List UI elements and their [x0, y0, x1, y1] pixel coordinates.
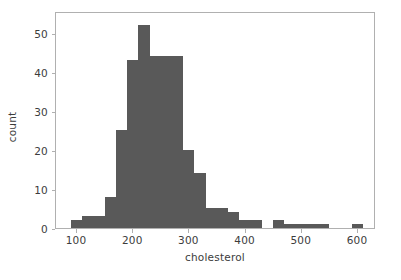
- histogram-bar: [352, 224, 363, 228]
- x-tick-label: 600: [347, 234, 368, 246]
- histogram-bar: [296, 224, 307, 228]
- histogram-bar: [183, 150, 194, 228]
- y-tick-label: 30: [34, 106, 48, 118]
- histogram-bar: [82, 216, 93, 228]
- histogram-bar: [71, 220, 82, 228]
- histogram-bar: [93, 216, 104, 228]
- y-tick-mark: [52, 190, 56, 191]
- x-tick-mark: [301, 229, 302, 233]
- histogram-bar: [228, 212, 239, 228]
- histogram-bar: [127, 60, 138, 228]
- histogram-bars: [56, 13, 374, 228]
- histogram-bar: [172, 56, 183, 228]
- histogram-bar: [206, 208, 217, 228]
- x-tick-label: 200: [122, 234, 143, 246]
- histogram-bar: [105, 197, 116, 228]
- histogram-bar: [138, 25, 149, 228]
- histogram-figure: 100200300400500600 01020304050 cholester…: [0, 0, 401, 280]
- y-tick-label: 40: [34, 67, 48, 79]
- histogram-bar: [194, 173, 205, 228]
- y-tick-mark: [52, 73, 56, 74]
- histogram-bar: [307, 224, 318, 228]
- histogram-bar: [318, 224, 329, 228]
- y-tick-label: 50: [34, 28, 48, 40]
- histogram-bar: [161, 56, 172, 228]
- x-tick-mark: [188, 229, 189, 233]
- y-tick-label: 0: [41, 223, 48, 235]
- y-tick-mark: [52, 34, 56, 35]
- histogram-bar: [284, 224, 295, 228]
- histogram-bar: [273, 220, 284, 228]
- x-tick-mark: [76, 229, 77, 233]
- y-tick-label: 10: [34, 184, 48, 196]
- x-tick-label: 400: [234, 234, 255, 246]
- x-tick-label: 500: [290, 234, 311, 246]
- y-tick-mark: [52, 229, 56, 230]
- x-tick-label: 300: [178, 234, 199, 246]
- y-tick-mark: [52, 151, 56, 152]
- plot-area: [55, 12, 375, 229]
- x-tick-mark: [245, 229, 246, 233]
- x-tick-mark: [357, 229, 358, 233]
- histogram-bar: [150, 56, 161, 228]
- y-axis-label: count: [6, 97, 18, 157]
- x-tick-label: 100: [66, 234, 87, 246]
- y-tick-mark: [52, 112, 56, 113]
- histogram-bar: [251, 220, 262, 228]
- x-axis-label: cholesterol: [55, 251, 375, 263]
- x-tick-mark: [132, 229, 133, 233]
- y-tick-label: 20: [34, 145, 48, 157]
- histogram-bar: [239, 220, 250, 228]
- histogram-bar: [217, 208, 228, 228]
- histogram-bar: [116, 130, 127, 228]
